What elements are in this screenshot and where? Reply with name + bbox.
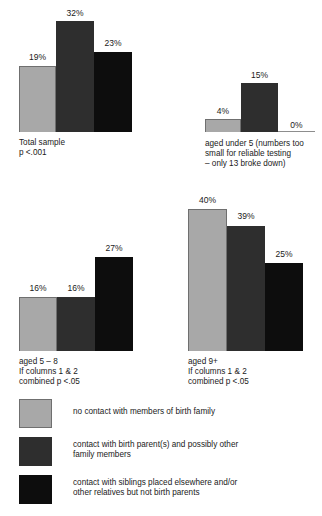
legend-item-siblings-other: contact with siblings placed elsewhere a… (19, 475, 309, 504)
bar-series-birth-parent (227, 226, 265, 351)
bar-slot: 25% (265, 200, 303, 351)
bar-value-label: 40% (199, 195, 216, 205)
bar-value-label: 4% (217, 106, 229, 116)
bar-group-under5: 4% 15% 0% (205, 78, 315, 132)
bar-value-label: 16% (67, 283, 84, 293)
legend-item-no-contact: no contact with members of birth family (19, 399, 309, 428)
bar-value-label: 25% (275, 249, 292, 259)
bar-slot: 27% (95, 215, 133, 351)
bar-value-label: 32% (66, 8, 83, 18)
bar-series-birth-parent (241, 83, 278, 132)
bar-series-birth-parent (56, 21, 94, 132)
legend-swatch-icon (19, 437, 52, 466)
chart-panel-total: 19% 32% 23% Total sample p <.001 (19, 14, 132, 132)
bar-slot: 0% (278, 78, 315, 132)
bar-series-siblings-other (95, 257, 133, 351)
legend-label: contact with birth parent(s) and possibl… (73, 437, 238, 461)
plot-area-aged9plus: 40% 39% 25% (188, 200, 303, 351)
legend-label: contact with siblings placed elsewhere a… (73, 475, 237, 499)
bar-slot: 16% (57, 215, 95, 351)
panel-caption-under5: aged under 5 (numbers too small for reli… (205, 139, 304, 170)
bar-value-label: 23% (104, 38, 121, 48)
bar-chart-figure: 19% 32% 23% Total sample p <.001 4% (0, 0, 322, 516)
panel-caption-aged9plus: aged 9+ If columns 1 & 2 combined p <.05 (188, 357, 249, 388)
bar-value-label: 16% (29, 283, 46, 293)
plot-area-under5: 4% 15% 0% (205, 78, 315, 132)
bar-series-siblings-other (265, 263, 303, 351)
legend-swatch-icon (19, 399, 52, 428)
bar-group-total: 19% 32% 23% (19, 14, 132, 132)
legend-label: no contact with members of birth family (73, 399, 215, 417)
legend-swatch-icon (19, 475, 52, 504)
bar-series-no-contact (188, 209, 227, 351)
chart-legend: no contact with members of birth family … (19, 399, 309, 513)
plot-area-total: 19% 32% 23% (19, 14, 132, 132)
bar-value-label: 27% (105, 243, 122, 253)
bar-series-no-contact (19, 66, 56, 132)
bar-value-label: 0% (290, 120, 302, 130)
bar-value-label: 39% (237, 211, 254, 221)
bar-slot: 4% (205, 78, 241, 132)
bar-slot: 15% (241, 78, 278, 132)
bar-slot: 16% (19, 215, 57, 351)
bar-value-label: 19% (29, 52, 46, 62)
bar-value-label: 15% (251, 70, 268, 80)
legend-item-birth-parent: contact with birth parent(s) and possibl… (19, 437, 309, 466)
bar-series-siblings-other (94, 52, 132, 132)
bar-series-no-contact (19, 297, 57, 351)
bar-slot: 39% (227, 200, 265, 351)
bar-slot: 32% (56, 14, 94, 132)
panel-caption-aged5to8: aged 5 – 8 If columns 1 & 2 combined p <… (19, 357, 80, 388)
bar-slot: 23% (94, 14, 132, 132)
bar-series-birth-parent (57, 297, 95, 351)
bar-group-aged5to8: 16% 16% 27% (19, 215, 133, 351)
plot-area-aged5to8: 16% 16% 27% (19, 215, 133, 351)
bar-series-no-contact (205, 119, 241, 132)
panel-caption-total: Total sample p <.001 (19, 138, 65, 158)
bar-slot: 40% (188, 200, 227, 351)
chart-panel-aged5to8: 16% 16% 27% aged 5 – 8 If columns 1 & 2 … (19, 215, 133, 351)
bar-slot: 19% (19, 14, 56, 132)
bar-group-aged9plus: 40% 39% 25% (188, 200, 303, 351)
chart-panel-under5: 4% 15% 0% aged under 5 (numbers too smal… (205, 78, 315, 132)
chart-panel-aged9plus: 40% 39% 25% aged 9+ If columns 1 & 2 com… (188, 200, 303, 351)
